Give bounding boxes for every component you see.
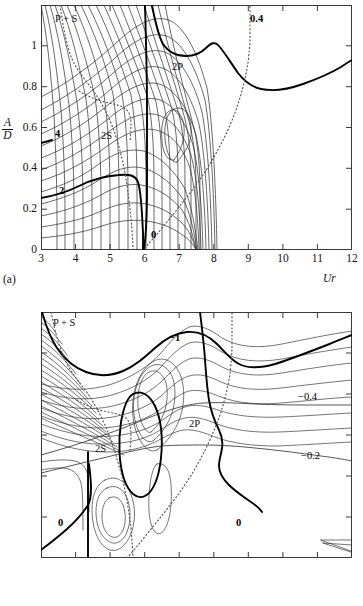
xtick-a-6: 6 [142, 253, 148, 265]
region-label-2p-a: 2P [172, 61, 183, 72]
contour-label-0-right-b: 0 [236, 517, 241, 528]
figure-root: P + S 2S 2P 0 2 4 0.4 0 0.2 0.4 0.6 0.8 … [0, 0, 363, 606]
xtick-a-8: 8 [211, 253, 217, 265]
contour-label-2-a: 2 [59, 185, 64, 196]
bold-contours-a [41, 5, 352, 250]
contour-label-0-a: 0 [151, 229, 156, 240]
region-label-2s-a: 2S [101, 130, 112, 141]
contour-label-minus1-b: −1 [169, 332, 180, 343]
tick-marks-a [41, 5, 352, 250]
contour-label-minus02-b: −0.2 [301, 450, 320, 461]
xtick-a-4: 4 [73, 253, 79, 265]
contour-canvas-b [41, 312, 352, 558]
yaxis-label-a: A D [2, 117, 13, 141]
ytick-a-0.2: 0.2 [12, 203, 37, 215]
contour-label-4-a: 4 [55, 128, 60, 139]
region-label-ps-a: P + S [55, 13, 77, 24]
xtick-a-3: 3 [38, 253, 44, 265]
xtick-a-11: 11 [312, 253, 323, 265]
ytick-a-0: 0 [20, 244, 37, 256]
yaxis-numerator-a: A [2, 117, 13, 129]
bold-contours-b [41, 312, 352, 558]
panel-b: P + S 2S 2P 0 0 −1 −0.4 −0.2 0 0.2 0.4 0… [0, 300, 363, 606]
region-label-2p-b: 2P [189, 418, 200, 429]
xtick-a-7: 7 [176, 253, 182, 265]
plot-area-b: P + S 2S 2P 0 0 −1 −0.4 −0.2 [41, 312, 352, 558]
contour-family-a [41, 5, 217, 250]
xaxis-label-a: Ur [323, 272, 336, 284]
region-label-2s-b: 2S [95, 443, 106, 454]
plot-area-a: P + S 2S 2P 0 2 4 0.4 [41, 5, 352, 250]
ytick-a-0.6: 0.6 [12, 122, 37, 134]
region-label-ps-b: P + S [53, 317, 75, 328]
ytick-a-1: 1 [20, 40, 37, 52]
ytick-a-0.4: 0.4 [12, 162, 37, 174]
contour-canvas-a [41, 5, 352, 250]
ytick-a-0.8: 0.8 [12, 81, 37, 93]
panel-tag-a: (a) [3, 273, 16, 285]
xtick-a-10: 10 [277, 253, 289, 265]
yaxis-denominator-a: D [2, 129, 13, 142]
xtick-a-12: 12 [346, 253, 358, 265]
contour-label-minus04-b: −0.4 [298, 391, 317, 402]
xtick-a-5: 5 [107, 253, 113, 265]
xtick-a-9: 9 [245, 253, 251, 265]
contour-label-0-left-b: 0 [58, 517, 63, 528]
contour-label-04-a: 0.4 [250, 13, 263, 24]
panel-a: P + S 2S 2P 0 2 4 0.4 0 0.2 0.4 0.6 0.8 … [0, 0, 363, 300]
